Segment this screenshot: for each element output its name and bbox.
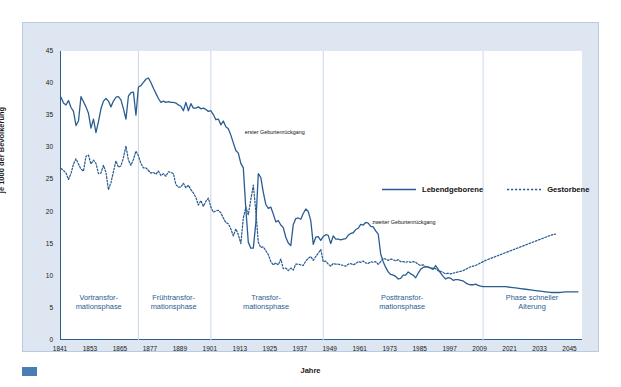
y-tick-label: 20 [31,208,53,215]
annotation-text: erster Geburtenrückgang [245,129,305,135]
legend-label-lebendgeborene: Lebendgeborene [422,185,483,194]
phase-label-line1: Phase schneller [472,293,592,302]
phase-label-line2: mationsphase [342,302,462,311]
phase-label-line2: mationsphase [206,302,326,311]
y-tick-label: 10 [31,272,53,279]
phase-label-line1: Posttransfor- [342,293,462,302]
legend-label-gestorbene: Gestorbene [547,185,589,194]
figure-root: 051015202530354045 184118531865187718891… [0,0,621,387]
series-line-gestorbene [61,146,556,274]
y-tick-label: 45 [31,47,53,54]
annotation-text: zweiter Geburtenrückgang [372,219,435,225]
y-tick-label: 0 [31,336,53,343]
y-tick-label: 30 [31,143,53,150]
phase-label: Transfor-mationsphase [206,293,326,312]
phase-label: Posttransfor-mationsphase [342,293,462,312]
phase-label-line2: Alterung [472,302,592,311]
y-tick-label: 25 [31,175,53,182]
y-tick-label: 40 [31,79,53,86]
y-axis-label: je 1000 der Bevölkerung [0,107,6,193]
phase-label: Phase schnellerAlterung [472,293,592,312]
y-tick-label: 15 [31,240,53,247]
x-tick-label: 2045 [550,345,590,352]
legend-swatch-lebendgeborene [382,186,416,193]
legend-swatch-gestorbene [507,186,541,193]
footer-color-mark [22,367,37,376]
phase-label-line1: Transfor- [206,293,326,302]
x-axis-label: Jahre [0,366,621,375]
y-tick-label: 35 [31,111,53,118]
chart-legend: Lebendgeborene Gestorbene [382,185,589,194]
